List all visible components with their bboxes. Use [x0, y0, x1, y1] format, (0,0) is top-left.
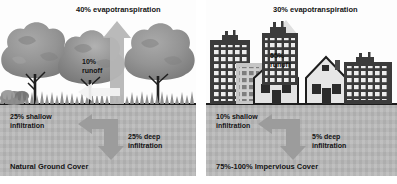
panel-impervious-cover: 10% shallow infiltration 5% deep infiltr…	[206, 0, 397, 180]
ground-line-natural	[0, 103, 196, 105]
sky-natural	[0, 0, 196, 104]
sky-impervious	[206, 0, 397, 104]
label-evapotranspiration-natural: 40% evapotranspiration	[76, 5, 161, 14]
label-evapotranspiration-impervious: 30% evapotranspiration	[273, 5, 358, 14]
label-deep-infiltration-natural: 25% deep infiltration	[128, 132, 162, 150]
label-deep-infiltration-impervious: 5% deep infiltration	[312, 132, 346, 150]
label-runoff-impervious: 55% runoff	[270, 51, 290, 69]
label-shallow-infiltration-natural: 25% shallow infiltration	[10, 112, 52, 130]
label-cover-natural: Natural Ground Cover	[10, 162, 88, 171]
ground-line-impervious	[206, 103, 397, 105]
label-shallow-infiltration-impervious: 10% shallow infiltration	[216, 112, 258, 130]
figure-canvas: 25% shallow infiltration 25% deep infilt…	[0, 0, 397, 184]
panel-natural-ground-cover: 25% shallow infiltration 25% deep infilt…	[0, 0, 196, 180]
label-cover-impervious: 75%-100% Impervious Cover	[216, 162, 318, 171]
label-runoff-natural: 10% runoff	[82, 57, 102, 75]
